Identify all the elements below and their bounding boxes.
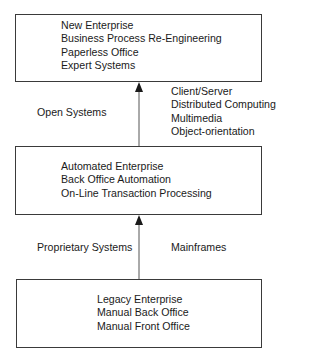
stage-item: Business Process Re-Engineering (61, 32, 222, 45)
stage-item: On-Line Transaction Processing (61, 187, 212, 200)
stage-title: New Enterprise (61, 19, 222, 32)
stage-item: Manual Back Office (97, 306, 190, 319)
transition-left-label: Open Systems (37, 106, 106, 119)
stage-item: Paperless Office (61, 46, 222, 59)
transition-right-labels: Client/Server Distributed Computing Mult… (171, 85, 276, 138)
stage-title: Legacy Enterprise (97, 293, 190, 306)
technology-label: Mainframes (171, 241, 226, 254)
technology-label: Object-orientation (171, 125, 276, 138)
transition-left-label: Proprietary Systems (37, 241, 132, 254)
stage-item: Expert Systems (61, 59, 222, 72)
stage-item: Back Office Automation (61, 173, 212, 186)
arrowhead-up-icon (135, 82, 143, 92)
arrow-legacy-to-automated (135, 215, 143, 279)
stage-text-new-enterprise: New Enterprise Business Process Re-Engin… (61, 19, 222, 72)
technology-label: Multimedia (171, 112, 276, 125)
arrowhead-up-icon (135, 215, 143, 225)
stage-text-legacy-enterprise: Legacy Enterprise Manual Back Office Man… (97, 293, 190, 333)
technology-label: Client/Server (171, 85, 276, 98)
technology-label: Distributed Computing (171, 98, 276, 111)
stage-text-automated-enterprise: Automated Enterprise Back Office Automat… (61, 160, 212, 200)
arrow-automated-to-new (135, 82, 143, 146)
stage-title: Automated Enterprise (61, 160, 212, 173)
stage-item: Manual Front Office (97, 320, 190, 333)
transition-right-labels: Mainframes (171, 241, 226, 254)
